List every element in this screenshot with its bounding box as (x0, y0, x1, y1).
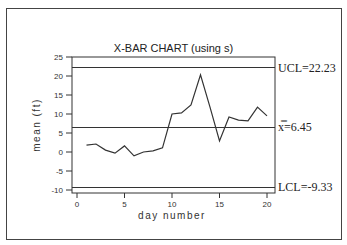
data-series-line (87, 75, 268, 156)
x-axis-label: day number (138, 210, 206, 221)
y-tick-label: 15 (54, 91, 63, 100)
ucl-line-label: UCL=22.23 (278, 61, 336, 75)
y-axis-label: mean (ft) (31, 98, 42, 152)
x-tick-label: 5 (122, 200, 127, 209)
lcl-line-label: LCL=-9.33 (278, 180, 332, 194)
y-tick-label: 5 (59, 129, 64, 138)
x-tick-label: 15 (215, 200, 224, 209)
plot-area (72, 57, 275, 193)
y-tick-label: 20 (54, 72, 63, 81)
y-tick-label: 10 (54, 110, 63, 119)
center-line-label: x̿=6.45 (278, 120, 312, 134)
x-axis: 05101520 (75, 193, 272, 209)
y-tick-label: 25 (54, 53, 63, 62)
x-tick-label: 0 (75, 200, 80, 209)
x-tick-label: 20 (263, 200, 272, 209)
control-lines: UCL=22.23x̿=6.45LCL=-9.33 (72, 61, 336, 195)
y-tick-label: -5 (56, 167, 64, 176)
y-axis: 2520151050-5-10 (51, 53, 72, 195)
y-tick-label: -10 (51, 186, 63, 195)
y-tick-label: 0 (59, 148, 64, 157)
xbar-chart: 2520151050-5-10 05101520 UCL=22.23x̿=6.4… (0, 0, 347, 245)
x-tick-label: 10 (168, 200, 177, 209)
